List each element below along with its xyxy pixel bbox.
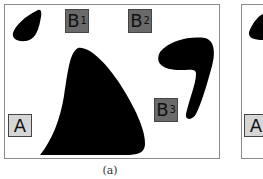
label-a-text: A — [14, 117, 26, 135]
label-b2-sub: 2 — [143, 16, 149, 26]
label-b2-text: B — [130, 12, 142, 30]
label-a: A — [8, 114, 32, 137]
label-b1-text: B — [67, 12, 79, 30]
label-b1: B1 — [65, 9, 89, 33]
label-b2: B2 — [128, 9, 152, 33]
label-b3-sub: 3 — [169, 105, 175, 115]
label-a-panel-b: A — [244, 114, 263, 137]
label-b3: B3 — [154, 98, 178, 122]
panel-a-caption: (a) — [0, 164, 220, 177]
large-triangular-blob-shape — [40, 48, 145, 155]
label-b1-sub: 1 — [80, 16, 86, 26]
small-blob-shape — [13, 10, 41, 41]
label-b3-text: B — [156, 101, 168, 119]
label-a-panel-b-text: A — [250, 117, 262, 135]
small-blob-shape-panel-b — [249, 14, 263, 40]
